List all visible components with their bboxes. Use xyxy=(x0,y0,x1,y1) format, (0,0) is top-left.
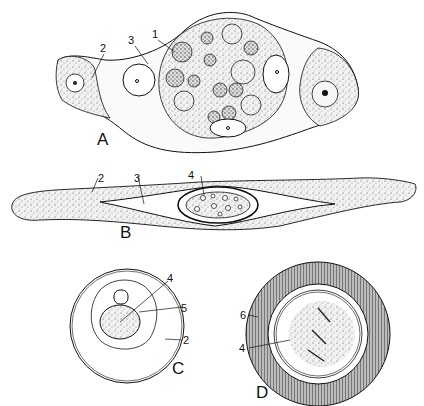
panel-d-callout-4: 4 xyxy=(239,342,245,354)
panel-d-label: D xyxy=(256,383,268,402)
panel-b-callout-2: 2 xyxy=(98,172,104,184)
panel-a-callout-1: 1 xyxy=(152,28,158,40)
panel-c: 4 5 2 C xyxy=(70,269,189,383)
panel-b-callout-3: 3 xyxy=(134,172,140,184)
panel-a-vacuole-bottom xyxy=(210,119,246,137)
panel-a-vacuole-3 xyxy=(123,64,155,96)
panel-b-label: B xyxy=(120,223,131,242)
panel-a-vacuole-right xyxy=(263,55,289,93)
panel-a-callout-2: 2 xyxy=(100,42,106,54)
panel-d-callout-6: 6 xyxy=(240,309,246,321)
panel-c-callout-5: 5 xyxy=(181,302,187,314)
panel-c-label: C xyxy=(172,359,184,378)
panel-c-callout-4: 4 xyxy=(167,272,173,284)
panel-d: 6 4 D xyxy=(239,262,390,406)
panel-a: 2 3 1 A xyxy=(56,12,358,152)
panel-a-label: A xyxy=(97,130,109,149)
panel-b-callout-4: 4 xyxy=(188,169,194,181)
panel-d-sporoplasm xyxy=(289,301,355,367)
panel-c-callout-2: 2 xyxy=(183,334,189,346)
panel-a-callout-3: 3 xyxy=(128,34,134,46)
